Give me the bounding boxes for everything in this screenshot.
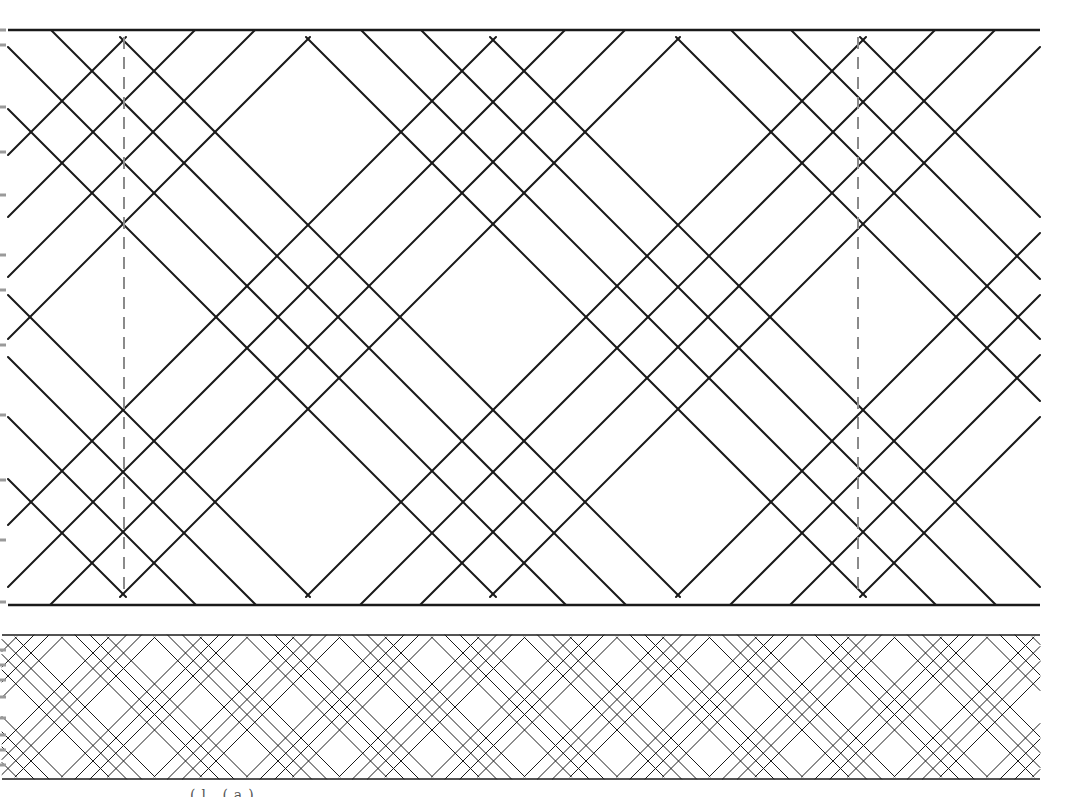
inner-strand-line xyxy=(791,30,1040,279)
outer-strand-line xyxy=(8,109,496,597)
inner-strand-line xyxy=(8,47,566,605)
outer-strand-line xyxy=(8,295,310,597)
outer-strand-line xyxy=(1033,637,1041,645)
figure-caption-fragment: (l (a) xyxy=(190,787,260,797)
inner-strand-line xyxy=(1000,635,1040,675)
outer-strand-line xyxy=(940,677,1040,777)
outer-strand-line xyxy=(490,37,1040,587)
inner-strand-line xyxy=(923,635,1041,753)
outer-strand-line xyxy=(987,637,1041,691)
outer-strand-line xyxy=(490,47,1040,597)
inner-strand-line xyxy=(923,662,1041,780)
inner-strand-line xyxy=(8,30,565,587)
inner-strand-line xyxy=(731,30,1040,339)
inner-strand-line xyxy=(2,732,49,779)
inner-strand-line xyxy=(8,417,196,605)
braid-pattern-diagram xyxy=(0,0,1068,797)
outer-strand-line xyxy=(2,717,63,778)
outer-strand-line xyxy=(8,479,126,597)
outer-strand-line xyxy=(8,37,126,155)
inner-strand-line xyxy=(8,30,255,277)
inner-strand-line xyxy=(2,640,142,780)
outer-strand-line xyxy=(8,37,310,339)
outer-strand-line xyxy=(2,637,63,698)
outer-strand-line xyxy=(1033,770,1041,778)
large-braid-panel xyxy=(0,30,1040,605)
inner-strand-line xyxy=(2,635,127,760)
inner-strand-line xyxy=(790,355,1040,605)
small-braid-panel xyxy=(0,635,1040,779)
inner-strand-line xyxy=(1015,635,1040,660)
inner-strand-line xyxy=(2,635,142,775)
outer-strand-line xyxy=(987,724,1041,778)
outer-strand-line xyxy=(940,637,1040,737)
inner-strand-line xyxy=(2,655,127,780)
inner-strand-line xyxy=(1000,739,1040,779)
inner-strand-line xyxy=(1015,754,1040,779)
inner-strand-line xyxy=(730,295,1040,605)
outer-strand-line xyxy=(8,37,496,525)
inner-strand-line xyxy=(8,30,195,217)
inner-strand-line xyxy=(2,635,49,682)
inner-strand-line xyxy=(8,357,256,605)
